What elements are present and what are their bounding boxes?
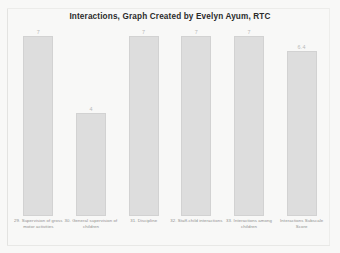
chart-title: Interactions, Graph Created by Evelyn Ay… [0, 12, 340, 21]
bar-rect-5 [234, 36, 264, 216]
bar-rect-1 [23, 36, 53, 216]
bar-rect-3 [129, 36, 159, 216]
category-label-2: 30. General supervision of children [64, 218, 118, 231]
bar-6: 6.4 [287, 36, 317, 216]
page-border-top [7, 8, 330, 9]
category-label-3: 31. Discipline [117, 218, 171, 224]
bar-1: 7 [23, 36, 53, 216]
page-border-left [7, 8, 8, 246]
bar-value-label-6: 6.4 [287, 44, 317, 50]
bar-5: 7 [234, 36, 264, 216]
page-border-right [329, 8, 330, 246]
scanned-page: Interactions, Graph Created by Evelyn Ay… [0, 0, 340, 253]
bar-chart-plot-area: 747776.4 [12, 36, 328, 216]
bar-rect-6 [287, 51, 317, 216]
bar-value-label-5: 7 [234, 29, 264, 35]
bar-4: 7 [181, 36, 211, 216]
bar-value-label-1: 7 [23, 29, 53, 35]
bar-2: 4 [76, 36, 106, 216]
bar-rect-2 [76, 113, 106, 216]
category-label-4: 32. Staff-child interactions [169, 218, 223, 224]
bar-value-label-3: 7 [129, 29, 159, 35]
bar-value-label-4: 7 [181, 29, 211, 35]
bar-value-label-2: 4 [76, 106, 106, 112]
category-axis-labels: 29. Supervision of gross motor activitie… [12, 218, 328, 250]
category-label-1: 29. Supervision of gross motor activitie… [11, 218, 65, 231]
bar-3: 7 [129, 36, 159, 216]
bar-rect-4 [181, 36, 211, 216]
category-label-5: 33. Interactions among children [222, 218, 276, 231]
category-label-6: Interactions Subscale Score [275, 218, 329, 231]
